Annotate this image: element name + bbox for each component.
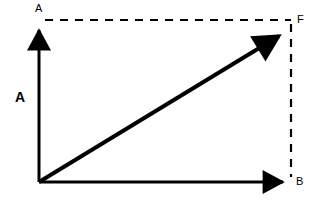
label-magnitude: A xyxy=(15,90,25,104)
dashed-projection-lines xyxy=(45,20,291,177)
resultant-vector-arrow xyxy=(39,36,279,182)
vector-diagram-canvas xyxy=(0,0,318,203)
label-resultant-force: F xyxy=(297,14,304,25)
vector-diagram: A F B A xyxy=(0,0,318,203)
label-vertical-axis: A xyxy=(35,3,42,14)
label-horizontal-axis: B xyxy=(296,176,303,187)
